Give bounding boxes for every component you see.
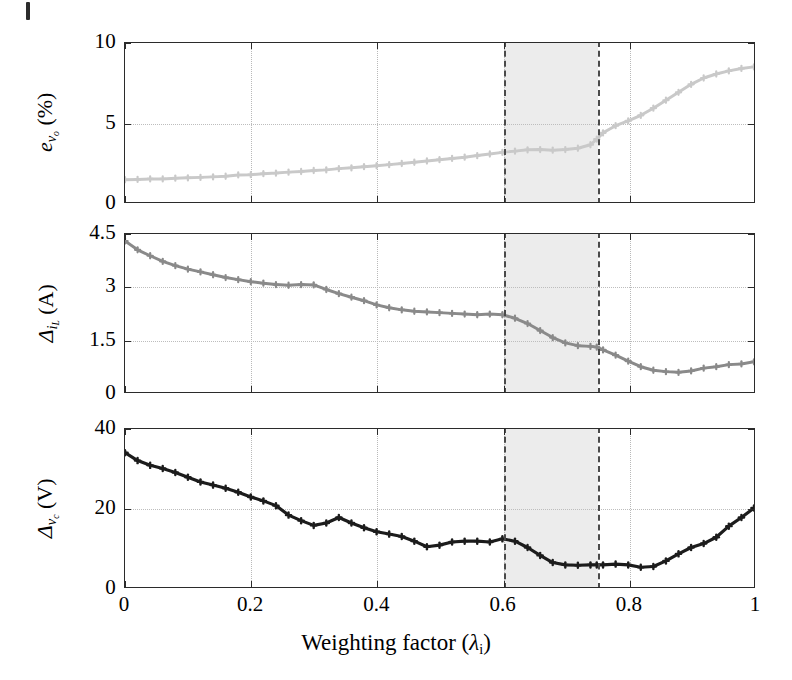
data-markers	[124, 238, 755, 374]
x-axis-tick-label: 0.8	[594, 594, 664, 615]
y-axis-tick	[125, 287, 131, 288]
x-axis-tick	[504, 386, 505, 392]
x-axis-tick-label: 0.4	[341, 594, 411, 615]
y-axis-tick	[125, 43, 131, 44]
y-axis-tick	[125, 124, 131, 125]
y-axis-title: evo (%)	[32, 93, 61, 153]
x-axis-tick-top	[251, 43, 252, 49]
y-axis-title: Δvc (V)	[32, 478, 61, 538]
x-axis-tick-top	[377, 234, 378, 240]
y-axis-title-main: e	[32, 142, 57, 152]
x-axis-tick-top	[504, 43, 505, 49]
y-axis-title-sub: vo	[43, 131, 59, 142]
x-axis-tick-label: 1	[720, 594, 790, 615]
y-axis-tick	[125, 234, 131, 235]
y-axis-tick-right	[748, 287, 754, 288]
y-axis-tick-right	[748, 43, 754, 44]
x-axis-tick	[377, 196, 378, 202]
y-axis-title: ΔiL (A)	[32, 284, 61, 342]
y-axis-title-unit: (%)	[32, 93, 57, 131]
y-axis-tick-label: 5	[56, 112, 116, 133]
y-axis-title-sub2: o	[50, 131, 61, 136]
x-axis-tick	[251, 581, 252, 587]
dashed-line-right-delta-vc	[598, 428, 600, 588]
data-markers	[124, 64, 755, 182]
plot-area-delta-vc	[124, 428, 755, 588]
y-axis-tick-right	[748, 124, 754, 125]
dashed-line-left-delta-vc	[504, 428, 506, 588]
dashed-line-left-evo	[504, 42, 506, 203]
y-axis-tick-label: 4.5	[56, 222, 116, 243]
y-axis-title-sub: iL	[43, 320, 59, 329]
x-axis-tick-label: 0.6	[468, 594, 538, 615]
x-axis-tick-top	[251, 234, 252, 240]
x-axis-tick	[251, 386, 252, 392]
x-axis-tick	[125, 386, 126, 392]
x-axis-title-symbol: λ	[469, 630, 479, 655]
series-delta-vc	[125, 429, 754, 587]
series-delta-il	[125, 234, 754, 392]
panel-delta-il	[124, 233, 755, 393]
y-axis-title-main: Δ	[32, 329, 57, 342]
y-axis-tick-label: 3	[56, 275, 116, 296]
x-axis-tick-top	[251, 429, 252, 435]
x-axis-tick	[125, 196, 126, 202]
y-axis-tick	[125, 341, 131, 342]
x-axis-tick-label: 0	[89, 594, 159, 615]
data-line	[125, 241, 754, 372]
y-axis-tick-label: 40	[56, 417, 116, 438]
data-markers	[124, 450, 755, 570]
data-line	[125, 453, 754, 568]
y-axis-tick-right	[748, 234, 754, 235]
y-axis-tick	[125, 509, 131, 510]
y-axis-title-unit: (A)	[32, 284, 57, 320]
y-axis-title-sub: vc	[43, 514, 59, 525]
y-axis-tick	[125, 429, 131, 430]
y-axis-tick-label: 1.5	[56, 329, 116, 350]
x-axis-title-text: Weighting factor (	[301, 630, 469, 655]
y-axis-tick-label: 10	[56, 31, 116, 52]
dashed-line-left-delta-il	[504, 233, 506, 393]
x-axis-tick	[630, 196, 631, 202]
series-evo	[125, 43, 754, 202]
y-axis-tick-label: 0	[56, 382, 116, 403]
y-axis-tick-label: 0	[56, 192, 116, 213]
x-axis-tick	[377, 386, 378, 392]
x-axis-title-close: )	[483, 630, 491, 655]
x-axis-tick-top	[377, 43, 378, 49]
dashed-line-right-delta-il	[598, 233, 600, 393]
x-axis-tick-top	[377, 429, 378, 435]
panel-delta-vc	[124, 428, 755, 588]
x-axis-tick	[504, 196, 505, 202]
page-scan-artifact	[26, 2, 30, 20]
y-axis-title-main: Δ	[32, 525, 57, 538]
x-axis-tick	[630, 581, 631, 587]
plot-area-evo	[124, 42, 755, 203]
x-axis-tick	[504, 581, 505, 587]
y-axis-title-unit: (V)	[32, 478, 57, 514]
x-axis-tick	[125, 581, 126, 587]
y-axis-tick-label: 20	[56, 497, 116, 518]
x-axis-title: Weighting factor (λi)	[0, 630, 792, 658]
y-axis-tick-right	[748, 429, 754, 430]
panel-evo	[124, 42, 755, 203]
x-axis-tick-top	[630, 234, 631, 240]
x-axis-tick-top	[630, 429, 631, 435]
x-axis-tick-top	[630, 43, 631, 49]
plot-area-delta-il	[124, 233, 755, 393]
figure-root: Weighting factor (λi) 0510evo (%)01.534.…	[0, 0, 792, 680]
x-axis-tick	[251, 196, 252, 202]
x-axis-tick	[377, 581, 378, 587]
y-axis-title-sub2: c	[50, 514, 61, 518]
y-axis-tick-right	[748, 509, 754, 510]
x-axis-tick	[630, 386, 631, 392]
x-axis-tick-top	[504, 429, 505, 435]
y-axis-tick-right	[748, 341, 754, 342]
dashed-line-right-evo	[598, 42, 600, 203]
x-axis-tick-label: 0.2	[215, 594, 285, 615]
x-axis-tick-top	[504, 234, 505, 240]
